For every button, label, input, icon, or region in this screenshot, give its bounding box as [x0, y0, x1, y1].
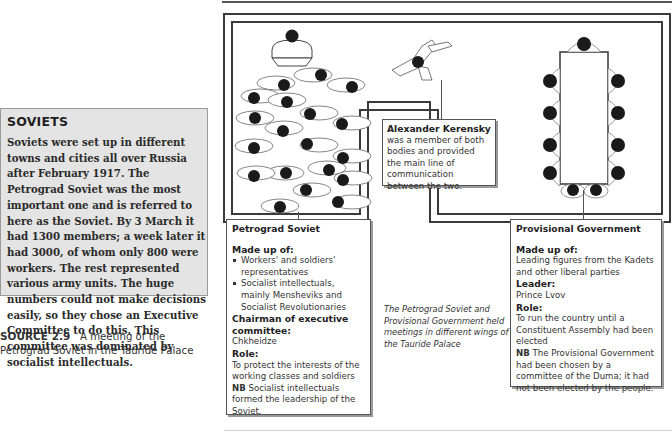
soviet-chairman-label: Chairman of executive committee:	[232, 313, 365, 336]
soviet-box-title: Petrograd Soviet	[232, 223, 365, 235]
government-leader: Prince Lvov	[516, 290, 656, 302]
soviet-chairman-icon	[272, 30, 312, 67]
kerensky-name: Alexander Kerensky	[387, 123, 491, 135]
soviet-made-up-label: Made up of:	[232, 244, 365, 256]
government-nb: NB The Provisional Government had been c…	[516, 348, 656, 394]
government-role: To run the country until a Constituent A…	[516, 313, 656, 348]
soviet-nb: NB Socialist intellectuals formed the le…	[232, 383, 365, 418]
government-nb-label: NB	[516, 348, 530, 358]
government-box-title: Provisional Government	[516, 223, 656, 235]
government-nb-text: The Provisional Government had been chos…	[516, 348, 654, 393]
kerensky-connector	[441, 80, 442, 120]
soviet-nb-text: Socialist intellectuals formed the leade…	[232, 383, 355, 416]
soviets-info-box: SOVIETS Soviets were set up in different…	[0, 108, 208, 296]
government-table-icon	[543, 37, 625, 198]
provisional-government-box: Provisional Government Made up of: Leadi…	[510, 219, 662, 387]
list-item: Socialist intellectuals, mainly Menshevi…	[241, 278, 365, 313]
soviet-chairman: Chkheidze	[232, 336, 365, 348]
petrograd-soviet-box: Petrograd Soviet Made up of: Workers' an…	[226, 219, 371, 415]
government-made-up: Leading figures from the Kadets and othe…	[516, 255, 656, 278]
source-caption: SOURCE 2.9 A meeting of the Petrograd So…	[0, 329, 210, 358]
soviet-role: To protect the interests of the working …	[232, 360, 365, 383]
soviet-members-list: Workers' and soldiers' representatives S…	[232, 255, 365, 313]
soviet-nb-label: NB	[232, 383, 246, 393]
soviets-title: SOVIETS	[7, 114, 68, 129]
palace-note: The Petrograd Soviet and Provisional Gov…	[384, 304, 524, 350]
kerensky-text: was a member of both bodies and provided…	[387, 135, 491, 193]
government-connector	[583, 190, 584, 220]
government-role-label: Role:	[516, 302, 656, 314]
list-item: Workers' and soldiers' representatives	[241, 255, 365, 278]
top-rule	[222, 1, 672, 3]
bottom-rule	[224, 430, 672, 431]
source-label: SOURCE 2.9	[0, 330, 70, 342]
government-made-up-label: Made up of:	[516, 244, 656, 256]
soviet-role-label: Role:	[232, 348, 365, 360]
government-leader-label: Leader:	[516, 278, 656, 290]
kerensky-label-box: Alexander Kerensky was a member of both …	[382, 119, 496, 186]
kerensky-figure-icon	[392, 40, 452, 80]
